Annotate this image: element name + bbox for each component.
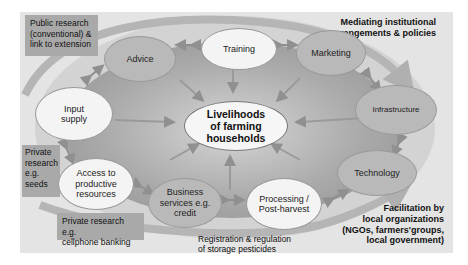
node-label: Marketing (311, 48, 351, 58)
box-text: Public research (30, 18, 93, 29)
center-label: of farming (207, 120, 266, 132)
node-label: Access to (75, 168, 117, 178)
box-text: Private research e.g. (62, 216, 139, 237)
center-label: households (207, 132, 266, 144)
private-research-banking-box: Private research e.g. cellphone banking (57, 213, 144, 240)
node-advice: Advice (104, 36, 176, 82)
label-text: Registration & regulation (198, 234, 291, 244)
label-text: (NGOs, farmers'groups, (340, 225, 444, 236)
registration-label: Registration & regulation of storage pes… (198, 234, 291, 254)
facilitation-label: Facilitation by local organizations (NGO… (340, 203, 444, 246)
node-label: Infrastructure (372, 105, 419, 114)
node-label: services e.g. (160, 198, 211, 208)
box-text: link to extension (30, 39, 93, 50)
node-infrastructure: Infrastructure (355, 85, 437, 135)
box-text: cellphone banking (62, 237, 139, 248)
node-label: credit (160, 208, 211, 218)
label-text: of storage pesticides (198, 244, 291, 254)
node-input-supply: Input supply (35, 87, 113, 141)
node-marketing: Marketing (296, 30, 366, 76)
box-text: research (25, 158, 57, 169)
private-research-seeds-box: Private research e.g. seeds (22, 145, 60, 197)
node-technology: Technology (337, 150, 417, 196)
node-label: productive (75, 179, 117, 189)
box-text: Private (25, 147, 57, 158)
box-text: e.g. (25, 168, 57, 179)
node-business-services: Business services e.g. credit (148, 178, 222, 228)
label-text: Mediating institutional (330, 17, 436, 28)
node-access-resources: Access to productive resources (58, 158, 134, 210)
node-label: resources (75, 189, 117, 199)
box-text: (conventional) & (30, 29, 93, 40)
center-label: Livelihoods (207, 108, 266, 120)
label-text: Facilitation by (340, 203, 444, 214)
node-label: Processing / (259, 194, 310, 204)
node-livelihoods-center: Livelihoods of farming households (184, 101, 288, 151)
box-text: seeds (25, 179, 57, 190)
label-text: local government) (340, 235, 444, 246)
node-label: Business (160, 187, 211, 197)
node-label: supply (61, 114, 87, 124)
node-processing: Processing / Post-harvest (246, 178, 322, 230)
node-label: Input (61, 104, 87, 114)
node-label: Training (223, 44, 255, 54)
node-label: Post-harvest (259, 204, 310, 214)
node-label: Technology (354, 168, 400, 178)
node-training: Training (201, 28, 277, 70)
label-text: local organizations (340, 214, 444, 225)
public-research-box: Public research (conventional) & link to… (25, 15, 98, 56)
node-label: Advice (126, 54, 153, 64)
